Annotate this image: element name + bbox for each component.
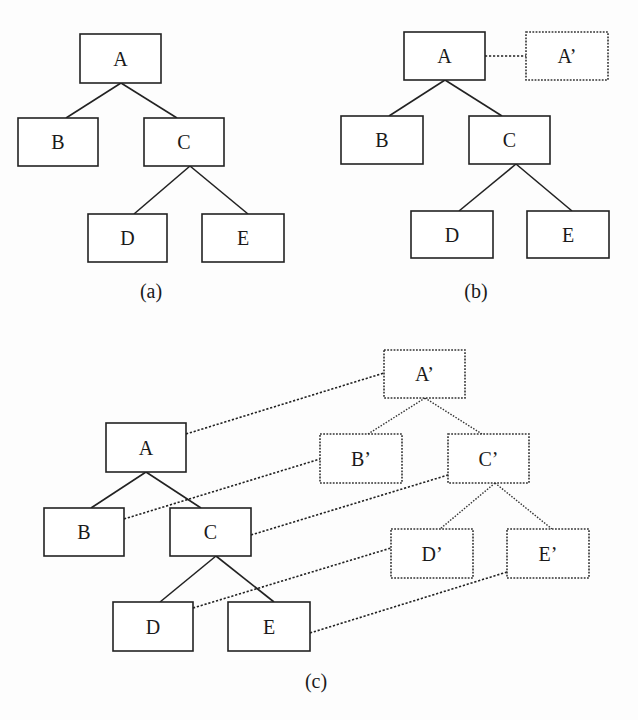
panel-c: A’AB’C’BCD’E’DE(c) xyxy=(44,350,589,693)
tree-node-C: C xyxy=(469,116,550,164)
tree-copy-diagram: ABCDE(a)AA’BCDE(b)A’AB’C’BCD’E’DE(c) xyxy=(0,0,638,720)
panel-caption: (c) xyxy=(305,670,327,693)
node-label: A xyxy=(113,48,128,70)
tree-node-B-copy: B’ xyxy=(320,434,402,483)
node-label: B xyxy=(77,521,90,543)
diagram-svg: ABCDE(a)AA’BCDE(b)A’AB’C’BCD’E’DE(c) xyxy=(0,0,638,720)
tree-edge xyxy=(459,164,516,211)
tree-edge xyxy=(146,472,201,508)
tree-node-A: A xyxy=(404,32,485,80)
tree-node-E-copy: E’ xyxy=(507,529,589,578)
tree-node-E: E xyxy=(228,602,310,651)
correspondence-link xyxy=(186,373,384,434)
node-label: B xyxy=(51,131,64,153)
node-label: C xyxy=(503,129,516,151)
tree-node-A-copy: A’ xyxy=(384,350,465,398)
tree-node-A: A xyxy=(80,34,161,83)
panel-caption: (b) xyxy=(464,280,487,303)
node-label: E xyxy=(263,616,275,638)
node-label: D xyxy=(146,616,160,638)
node-label: A xyxy=(437,45,452,67)
node-label: C xyxy=(177,131,190,153)
tree-node-E: E xyxy=(527,211,609,258)
tree-edge xyxy=(66,83,121,118)
node-label: B xyxy=(375,129,388,151)
tree-edge xyxy=(389,80,445,116)
node-label: C xyxy=(204,521,217,543)
tree-edge xyxy=(91,472,146,508)
tree-node-C: C xyxy=(144,118,224,166)
tree-edge xyxy=(134,166,190,214)
tree-node-D: D xyxy=(88,214,167,262)
node-label: A xyxy=(139,437,154,459)
node-label: E’ xyxy=(539,543,558,565)
tree-node-E: E xyxy=(202,214,284,262)
panel-b: AA’BCDE(b) xyxy=(341,32,609,303)
tree-edge xyxy=(440,483,495,529)
tree-node-A: A xyxy=(106,423,186,472)
panel-a: ABCDE(a) xyxy=(18,34,284,303)
node-label: D xyxy=(445,224,459,246)
tree-edge xyxy=(445,80,502,116)
tree-edge xyxy=(121,83,177,118)
tree-node-A-copy: A’ xyxy=(526,32,608,80)
correspondence-link xyxy=(193,548,391,608)
tree-node-C: C xyxy=(170,508,251,556)
node-label: E xyxy=(237,227,249,249)
node-label: A’ xyxy=(415,363,434,385)
tree-edge xyxy=(495,483,552,529)
tree-node-B: B xyxy=(18,118,98,166)
tree-node-B: B xyxy=(341,116,423,164)
tree-node-D-copy: D’ xyxy=(391,529,473,578)
node-label: D’ xyxy=(421,543,442,565)
tree-edge xyxy=(425,398,482,434)
node-label: A’ xyxy=(558,45,577,67)
tree-edge xyxy=(216,556,274,602)
node-label: D xyxy=(120,227,134,249)
tree-edge xyxy=(516,164,572,211)
correspondence-link xyxy=(310,572,507,633)
tree-edge xyxy=(368,398,425,434)
tree-edge xyxy=(160,556,216,602)
tree-edge xyxy=(190,166,248,214)
tree-node-B: B xyxy=(44,508,124,556)
node-label: E xyxy=(562,224,574,246)
tree-node-D: D xyxy=(113,602,193,651)
tree-node-C-copy: C’ xyxy=(448,434,529,483)
correspondence-link xyxy=(251,475,448,535)
node-label: C’ xyxy=(479,448,499,470)
tree-node-D: D xyxy=(411,211,493,258)
node-label: B’ xyxy=(351,448,371,470)
panel-caption: (a) xyxy=(140,280,162,303)
